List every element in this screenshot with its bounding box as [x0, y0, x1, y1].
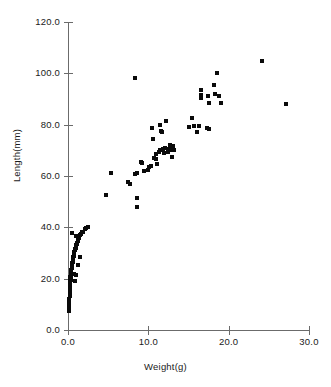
- data-point: [67, 309, 71, 313]
- data-point: [206, 94, 210, 98]
- data-point: [172, 148, 176, 152]
- data-point: [170, 155, 174, 159]
- data-point: [199, 96, 203, 100]
- data-point: [135, 205, 139, 209]
- y-tick-label: 80.0: [16, 119, 60, 130]
- data-point: [158, 123, 162, 127]
- y-tick-label: 120.0: [16, 16, 60, 27]
- x-tick-label: 30.0: [283, 336, 331, 347]
- y-tick-label: 100.0: [16, 67, 60, 78]
- data-point: [160, 130, 164, 134]
- x-tick-mark: [229, 326, 230, 335]
- scatter-chart-figure: 0.020.040.060.080.0100.0120.0 0.010.020.…: [0, 0, 331, 387]
- data-point: [151, 137, 155, 141]
- data-point: [73, 279, 77, 283]
- data-point: [155, 162, 159, 166]
- y-tick-mark: [64, 176, 73, 177]
- data-point: [150, 126, 154, 130]
- data-point: [207, 127, 211, 131]
- data-point: [192, 124, 196, 128]
- data-point: [212, 83, 216, 87]
- y-tick-label: 40.0: [16, 221, 60, 232]
- x-tick-mark: [68, 326, 69, 335]
- data-point: [133, 76, 137, 80]
- data-point: [76, 263, 80, 267]
- y-axis-label: Length(mm): [11, 106, 22, 206]
- data-point: [69, 278, 73, 282]
- x-axis-label: Weight(g): [0, 361, 331, 372]
- data-point: [190, 116, 194, 120]
- x-tick-mark: [148, 326, 149, 335]
- data-point: [128, 182, 132, 186]
- data-point: [74, 273, 78, 277]
- data-point: [104, 193, 108, 197]
- x-tick-label: 0.0: [42, 336, 94, 347]
- data-point: [195, 130, 199, 134]
- data-point: [149, 164, 153, 168]
- plot-area: 0.020.040.060.080.0100.0120.0 0.010.020.…: [0, 0, 331, 387]
- y-tick-mark: [64, 227, 73, 228]
- y-tick-label: 60.0: [16, 170, 60, 181]
- y-tick-mark: [64, 125, 73, 126]
- data-point: [135, 196, 139, 200]
- y-tick-label: 20.0: [16, 273, 60, 284]
- x-tick-mark: [309, 326, 310, 335]
- x-tick-label: 10.0: [122, 336, 174, 347]
- y-tick-mark: [64, 73, 73, 74]
- data-point: [199, 88, 203, 92]
- data-point: [67, 305, 71, 309]
- data-point: [207, 101, 211, 105]
- data-point: [140, 161, 144, 165]
- data-point: [164, 119, 168, 123]
- x-tick-label: 20.0: [203, 336, 255, 347]
- data-point: [197, 124, 201, 128]
- data-point: [284, 102, 288, 106]
- data-point: [67, 301, 71, 305]
- data-point: [154, 157, 158, 161]
- data-point: [109, 171, 113, 175]
- y-tick-mark: [64, 22, 73, 23]
- x-axis-line: [68, 330, 310, 331]
- data-point: [135, 171, 139, 175]
- data-point: [215, 71, 219, 75]
- y-tick-label: 0.0: [16, 324, 60, 335]
- data-point: [78, 255, 82, 259]
- data-point: [217, 94, 221, 98]
- data-point: [74, 234, 78, 238]
- data-point: [187, 125, 191, 129]
- data-point: [260, 59, 264, 63]
- data-point: [219, 101, 223, 105]
- data-point: [86, 225, 90, 229]
